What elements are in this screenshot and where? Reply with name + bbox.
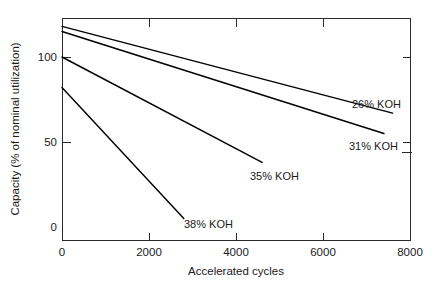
series-line-35-koh	[62, 57, 262, 162]
x-tick-label-0: 0	[59, 246, 65, 258]
x-tick-label-8000: 8000	[397, 246, 423, 258]
x-tick-label-6000: 6000	[310, 246, 336, 258]
series-line-26-koh	[62, 26, 393, 113]
series-label-31-koh: 31% KOH	[349, 140, 398, 152]
x-tick-label-4000: 4000	[223, 246, 249, 258]
y-axis-title: Capacity (% of nominal utilization)	[9, 42, 21, 215]
series-annotations: 26% KOH 31% KOH 35% KOH 38% KOH	[184, 98, 401, 230]
y-axis-ticks	[63, 58, 71, 143]
y-tick-label-0: 0	[51, 221, 57, 233]
series-label-35-koh: 35% KOH	[250, 170, 299, 182]
plot-frame	[63, 19, 411, 241]
x-axis-ticks-top	[150, 19, 324, 27]
x-tick-labels: 0 2000 4000 6000 8000	[59, 246, 423, 258]
y-tick-label-100: 100	[38, 51, 57, 63]
x-axis-ticks	[150, 233, 324, 241]
series-label-38-koh: 38% KOH	[184, 218, 233, 230]
y-axis-ticks-right	[403, 58, 411, 143]
x-tick-label-2000: 2000	[136, 246, 162, 258]
series-line-38-koh	[62, 88, 184, 219]
plot-border	[63, 19, 411, 241]
y-tick-labels: 0 50 100	[38, 51, 57, 233]
data-series-group	[62, 26, 393, 218]
x-axis-title: Accelerated cycles	[188, 265, 284, 277]
y-tick-label-50: 50	[44, 136, 57, 148]
capacity-vs-cycles-chart: Capacity (% of nominal utilization) Acce…	[0, 0, 435, 286]
series-label-26-koh: 26% KOH	[352, 98, 401, 110]
